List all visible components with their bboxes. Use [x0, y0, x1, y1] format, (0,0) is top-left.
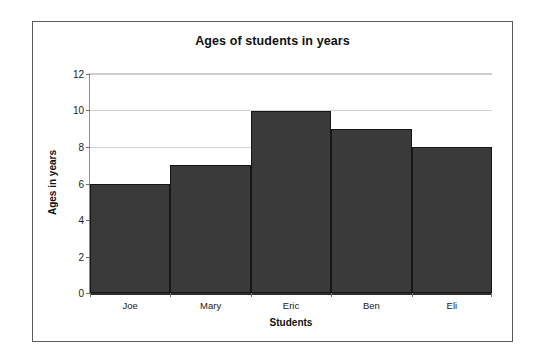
x-axis-tick-mark [90, 293, 91, 297]
plot-area: 024681012 JoeMaryEricBenEli Students [89, 73, 492, 293]
bar[interactable] [170, 165, 250, 293]
y-axis-tick-label: 10 [73, 105, 84, 116]
x-axis-tick-mark [491, 293, 492, 297]
bar-group: Eric [251, 74, 331, 293]
x-axis-tick-label: Eric [251, 300, 331, 311]
bar[interactable] [251, 111, 331, 294]
x-axis-title: Students [90, 317, 492, 328]
x-axis-tick-label: Mary [170, 300, 250, 311]
bars-group: JoeMaryEricBenEli [90, 74, 492, 293]
x-axis-tick-mark [412, 293, 413, 297]
chart-figure-frame: Ages of students in years Ages in years … [32, 21, 513, 342]
y-axis-title-label: Ages in years [48, 150, 59, 215]
x-axis-tick-mark [170, 293, 171, 297]
x-axis-baseline [90, 293, 492, 295]
chart-title: Ages of students in years [33, 34, 512, 48]
bar[interactable] [412, 147, 492, 293]
bar-group: Mary [170, 74, 250, 293]
bar[interactable] [331, 129, 411, 293]
bar-group: Ben [331, 74, 411, 293]
y-axis-tick-label: 12 [73, 69, 84, 80]
y-axis-tick-label: 0 [78, 288, 84, 299]
x-axis-tick-label: Eli [412, 300, 492, 311]
bar[interactable] [90, 184, 170, 294]
y-axis-tick-label: 2 [78, 251, 84, 262]
x-axis-tick-mark [251, 293, 252, 297]
x-axis-tick-mark [331, 293, 332, 297]
y-axis-tick-label: 6 [78, 178, 84, 189]
y-axis-tick-label: 8 [78, 141, 84, 152]
x-axis-tick-label: Joe [90, 300, 170, 311]
y-axis-tick-label: 4 [78, 214, 84, 225]
bar-group: Eli [412, 74, 492, 293]
bar-group: Joe [90, 74, 170, 293]
x-axis-tick-label: Ben [331, 300, 411, 311]
y-axis-title: Ages in years [45, 73, 61, 292]
